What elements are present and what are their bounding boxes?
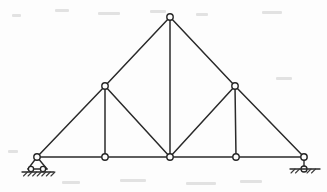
truss-members-group <box>37 17 304 157</box>
member-diagonal-web-F-C <box>105 86 170 157</box>
paper-texture-group <box>8 9 292 185</box>
joint-upper-left-joint <box>102 83 108 89</box>
truss-diagram-figure <box>0 0 327 192</box>
joint-bottom-left-joint <box>102 154 108 160</box>
member-diagonal-web-C-H <box>170 86 235 157</box>
left-support-roller-2 <box>40 166 45 171</box>
member-top-chord-F-G <box>105 17 170 86</box>
member-vertical-web-H-D <box>235 86 236 157</box>
joint-left-support-joint <box>34 154 40 160</box>
truss-diagram-canvas <box>0 0 327 192</box>
joint-upper-right-joint <box>232 83 238 89</box>
left-support-roller-1 <box>28 166 33 171</box>
member-top-chord-A-F <box>37 86 105 157</box>
joint-right-support-joint <box>301 154 307 160</box>
joint-bottom-right-joint <box>233 154 239 160</box>
joint-apex-joint <box>167 14 173 20</box>
member-top-chord-H-E <box>235 86 304 157</box>
member-top-chord-G-H <box>170 17 235 86</box>
joint-bottom-center-joint <box>167 154 173 160</box>
